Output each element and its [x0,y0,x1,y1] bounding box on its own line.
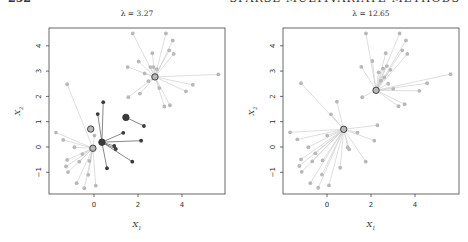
data-point [152,65,156,69]
data-point [87,159,91,163]
data-point [131,32,135,36]
data-point [216,72,220,76]
data-point [155,67,159,71]
data-point [364,160,368,164]
x-axis-label: X1 [132,220,142,231]
data-point [385,64,389,68]
cluster-center [88,126,94,132]
data-point [379,79,383,83]
y-axis-label: X2 [247,107,258,117]
data-point [404,39,408,43]
data-point [310,160,314,164]
data-point [308,181,312,185]
cluster-center [341,126,347,132]
data-point [321,159,325,163]
data-point [377,70,381,74]
data-point [338,166,342,170]
data-point [167,48,171,52]
cluster-links [56,33,218,188]
data-point [143,71,147,75]
x-tick-label: 0 [325,201,329,209]
chart-title: λ = 12.65 [352,9,390,18]
data-point [150,51,154,55]
data-point [398,32,402,36]
data-point [114,147,118,151]
data-point [101,100,105,104]
data-point [384,51,388,55]
cluster-center [123,114,129,120]
y-tick-label: 1 [35,119,43,123]
y-tick-label: 3 [35,69,43,73]
data-point [400,48,404,52]
data-point [146,79,150,83]
y-tick-label: 4 [35,43,43,48]
data-point [320,173,324,177]
y-tick-label: −1 [35,167,43,177]
cluster-links [290,33,451,187]
data-point [347,147,351,151]
y-axis-label: X2 [13,107,24,117]
data-point [77,160,81,164]
data-point [94,184,98,188]
data-point [297,164,301,168]
data-point [300,170,304,174]
cluster-center [152,74,158,80]
data-point [449,72,453,76]
data-point [157,86,161,90]
data-points [288,32,452,190]
panel-lambda-small: λ = 3.27024−101234X1X2 [13,9,225,231]
data-point [73,145,77,149]
data-point [96,112,100,116]
data-point [288,130,292,134]
data-point [82,186,86,190]
data-point [327,184,331,188]
x-tick-label: 4 [413,201,418,209]
data-point [64,165,68,169]
x-tick-label: 0 [92,201,96,209]
data-point [329,112,333,116]
data-points [54,32,220,191]
data-point [130,160,134,164]
data-point [355,131,359,135]
data-point [126,65,130,69]
data-point [54,131,58,135]
x-tick-label: 2 [136,201,140,209]
data-point [137,60,141,64]
x-tick-label: 2 [369,201,373,209]
y-tick-label: 4 [269,43,277,48]
data-point [391,87,395,91]
y-tick-label: 3 [269,69,277,73]
data-point [382,76,386,80]
plot-frame [283,28,459,194]
data-point [418,89,422,93]
cluster-center [373,87,379,93]
data-point [335,100,339,104]
data-point [168,103,172,107]
cluster-center [90,145,96,151]
y-tick-label: −1 [269,167,277,177]
data-point [360,95,364,99]
data-point [316,186,320,190]
data-point [80,152,84,156]
data-point [61,138,65,142]
data-point [299,157,303,161]
data-point [364,32,368,36]
data-point [75,181,79,185]
data-point [403,102,407,106]
y-tick-label: 0 [35,145,43,149]
data-point [142,124,146,128]
data-point [93,134,97,138]
plot-frame [49,28,225,194]
data-point [139,139,143,143]
data-point [397,104,401,108]
data-point [184,89,188,93]
data-point [66,170,70,174]
y-tick-label: 1 [269,119,277,123]
y-tick-label: 2 [269,94,277,98]
x-axis-label: X1 [366,220,376,231]
data-point [372,139,376,143]
data-point [370,59,374,63]
data-point [86,173,90,177]
data-point [375,123,379,127]
x-tick-label: 4 [180,201,185,209]
